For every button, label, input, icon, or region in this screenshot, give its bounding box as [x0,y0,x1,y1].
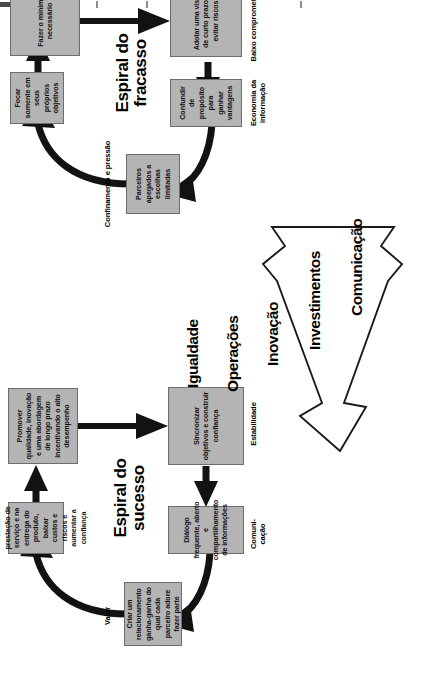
success-box-criar-text: Criar um relacionamento ganha-ganha do q… [125,586,182,642]
failure-box-focar: Focar somente em seus próprios objetivos [10,72,64,124]
success-label-valor: Valor [104,584,113,648]
success-box-criar: Criar um relacionamento ganha-ganha do q… [124,582,182,646]
success-box-promover-text: Promover qualidade, inovação e uma abord… [15,392,72,460]
success-spiral-title: Espiral do sucesso [112,428,148,568]
failure-label-confinamento: Confinamento e pressão [104,128,113,240]
failure-box-minimo-text: Fazer o mínimo necessário [36,0,55,52]
failure-spiral-title: Espiral do fracasso [114,8,150,138]
diagram-canvas: Espiral do sucesso Concentrar-se na pres… [0,0,426,684]
transition-arrow [263,227,402,451]
success-box-sincronizar: Sincronizar objetivos e construir confia… [168,387,244,465]
failure-box-parceiros-text: Parceiros apegados a escolhas limitadas [134,158,172,210]
arrow-label-inovacao: Inovação [264,302,282,366]
arrow-label-comunicacao: Comunicação [348,219,366,316]
arrow-label-investimentos: Investimentos [306,251,324,350]
failure-box-curto-prazo-text: Adotar uma visão de curto prazo e evitar… [192,0,221,53]
failure-box-confundir: Confundir de propósito para ganhar vanta… [170,79,242,127]
success-box-promover: Promover qualidade, inovação e uma abord… [8,388,78,464]
arrow-label-igualdade: Igualdade [184,319,202,388]
success-box-sincronizar-text: Sincronizar objetivos e construir confia… [192,391,221,461]
success-box-dialogo: Diálogo frequente, aberto e compartilham… [168,506,244,554]
failure-box-minimo: Fazer o mínimo necessário [10,0,80,56]
failure-box-confundir-text: Confundir de propósito para ganhar vanta… [178,83,235,123]
arrow-confiabilidade-to-criatividade [24,465,48,504]
success-box-dialogo-text: Diálogo frequente, aberto e compartilham… [182,500,230,561]
success-box-concentrar-text: Concentrar-se na prestação de serviço e … [0,506,88,550]
success-label-comunicacao: Comuni- cação [250,502,268,566]
success-box-concentrar: Concentrar-se na prestação de serviço e … [8,502,64,554]
failure-box-focar-text: Focar somente em seus próprios objetivos [13,76,61,120]
failure-label-baixo-comprometimento: Baixo comprometimento [250,0,259,72]
failure-box-parceiros: Parceiros apegados a escolhas limitadas [126,154,180,214]
success-label-estabilidade: Estabilidade [250,386,259,462]
failure-box-curto-prazo: Adotar uma visão de curto prazo e evitar… [170,0,242,57]
arrow-label-operacoes: Operações [224,315,242,392]
failure-label-economia-informacao: Economia da informação [250,66,268,140]
